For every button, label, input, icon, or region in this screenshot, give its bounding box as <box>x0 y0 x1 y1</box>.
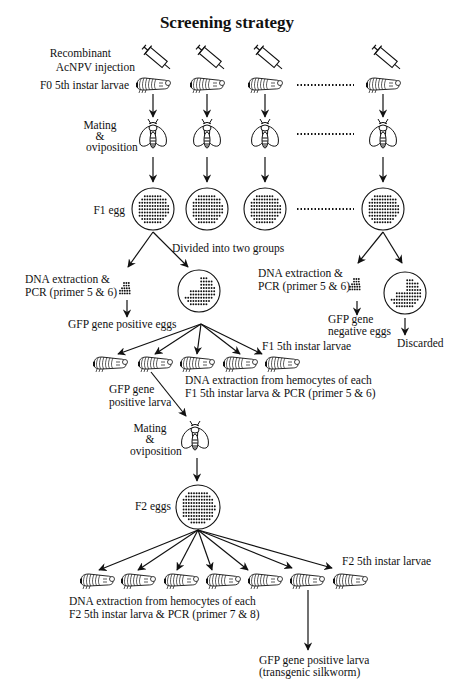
egg-dot <box>269 205 271 207</box>
egg-dot <box>190 515 192 517</box>
egg-dot <box>387 221 389 223</box>
egg-dot <box>154 221 156 223</box>
egg-dot <box>258 221 260 223</box>
egg-dot <box>203 512 205 514</box>
egg-dot <box>414 302 416 304</box>
egg-dot <box>203 199 205 201</box>
syringe-icon <box>140 42 174 73</box>
egg-dot <box>209 505 211 507</box>
egg-dot <box>389 218 391 220</box>
egg-dot <box>198 205 200 207</box>
egg-dot <box>159 215 161 217</box>
egg-dot <box>139 215 141 217</box>
egg-dot <box>358 283 360 285</box>
egg-dot <box>203 284 205 286</box>
mating2-line2: & <box>146 433 155 445</box>
egg-dot <box>188 505 190 507</box>
egg-dot <box>198 290 200 292</box>
egg-dot <box>216 199 218 201</box>
egg-dot <box>274 218 276 220</box>
egg-dot <box>411 286 413 288</box>
egg-dot <box>196 505 198 507</box>
egg-dot <box>264 208 266 210</box>
egg-dot <box>258 205 260 207</box>
egg-dot <box>201 502 203 504</box>
egg-dot <box>198 199 200 201</box>
egg-dot <box>258 215 260 217</box>
egg-dot <box>279 212 281 214</box>
egg-dot <box>274 208 276 210</box>
egg-dot <box>374 205 376 207</box>
egg-dot <box>211 221 213 223</box>
egg-dot <box>371 218 373 220</box>
egg-dot <box>154 202 156 204</box>
egg-dot <box>406 305 408 307</box>
egg-dot <box>193 515 195 517</box>
egg-dot <box>411 289 413 291</box>
egg-dot <box>193 492 195 494</box>
egg-dot <box>201 515 203 517</box>
egg-dot <box>398 305 400 307</box>
egg-dot <box>376 202 378 204</box>
egg-dot <box>387 195 389 197</box>
egg-dot <box>389 221 391 223</box>
egg-dot <box>196 515 198 517</box>
egg-dot <box>359 288 361 290</box>
egg-dot <box>213 195 215 197</box>
egg-dot <box>144 221 146 223</box>
egg-dot <box>190 522 192 524</box>
egg-dot <box>419 292 421 294</box>
egg-dot <box>397 208 399 210</box>
f1-larvae-label: F1 5th instar larvae <box>262 340 351 352</box>
egg-dot <box>149 218 151 220</box>
egg-dot <box>374 221 376 223</box>
egg-dot <box>206 512 208 514</box>
egg-dot <box>395 202 397 204</box>
egg-dot <box>213 287 215 289</box>
egg-dot <box>203 509 205 511</box>
egg-dot <box>206 505 208 507</box>
egg-dot <box>125 282 127 284</box>
egg-dot <box>196 499 198 501</box>
egg-dot <box>201 518 203 520</box>
egg-dot <box>253 199 255 201</box>
egg-dot <box>216 208 218 210</box>
egg-dot <box>198 218 200 220</box>
silkmoth-icon <box>182 421 209 450</box>
egg-dot <box>271 199 273 201</box>
egg-dot <box>406 296 408 298</box>
egg-dot <box>349 286 351 288</box>
egg-dot <box>154 218 156 220</box>
egg-dot <box>190 502 192 504</box>
egg-dot <box>266 218 268 220</box>
egg-dot <box>376 212 378 214</box>
egg-dot <box>162 202 164 204</box>
mating2-line3: oviposition <box>130 445 182 458</box>
egg-dot <box>384 202 386 204</box>
egg-dot <box>196 492 198 494</box>
f0-columns <box>132 42 404 230</box>
egg-dot <box>406 289 408 291</box>
egg-dot <box>359 286 361 288</box>
egg-dot <box>277 208 279 210</box>
egg-dot <box>382 212 384 214</box>
egg-dot <box>200 218 202 220</box>
egg-dot <box>119 292 121 294</box>
egg-dot <box>398 292 400 294</box>
egg-dot <box>211 208 213 210</box>
mating1-line3: oviposition <box>86 141 138 154</box>
egg-dot <box>401 305 403 307</box>
silkworm-larva-icon <box>180 357 215 372</box>
egg-dot <box>203 505 205 507</box>
egg-dot <box>356 283 358 285</box>
egg-dot <box>266 221 268 223</box>
egg-dot <box>200 221 202 223</box>
egg-dot <box>384 199 386 201</box>
egg-dot <box>123 282 125 284</box>
egg-dot <box>251 212 253 214</box>
egg-dot <box>205 300 207 302</box>
egg-dot <box>149 221 151 223</box>
egg-dot <box>401 299 403 301</box>
injection-label-line2: AcNPV injection <box>56 61 136 74</box>
egg-dot <box>195 208 197 210</box>
